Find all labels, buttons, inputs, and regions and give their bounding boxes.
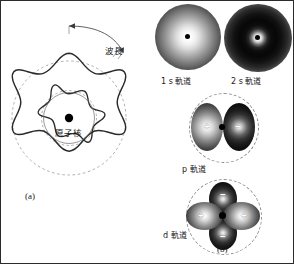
inner-standing-wave <box>33 76 111 151</box>
orbital-1s <box>155 4 221 70</box>
nucleus-dot <box>65 114 73 122</box>
caption-a: (a) <box>25 191 35 201</box>
panel-b-orbitals: 1 s 軌道 2 s 軌道 + − p 軌道 − + <box>151 1 294 264</box>
caption-b: (b) <box>217 244 228 254</box>
orbital-d-nucleus-dot <box>219 212 226 219</box>
nucleus-label: 原子核 <box>55 129 82 138</box>
orbital-d: − + + − <box>181 178 265 254</box>
orbital-1s-nucleus-dot <box>185 34 190 39</box>
wavelength-arrow-left <box>69 23 75 29</box>
orbital-p-sign-negative: − <box>231 121 245 132</box>
orbital-d-sign-top: − <box>216 190 230 200</box>
orbital-p-label: p 軌道 <box>182 163 206 174</box>
panel-a-standing-wave: 原子核 波長 (a) <box>1 1 151 264</box>
orbital-2s-label: 2 s 軌道 <box>231 75 261 86</box>
orbital-p: + − <box>185 91 261 163</box>
figure-container: 原子核 波長 (a) 1 s 軌道 2 s 軌道 + − p 軌道 <box>0 0 294 264</box>
orbital-d-sign-right: + <box>237 211 251 221</box>
wavelength-label: 波長 <box>105 47 123 56</box>
orbital-d-label: d 軌道 <box>163 229 187 240</box>
orbital-d-sign-bottom: − <box>216 232 230 242</box>
orbital-p-sign-positive: + <box>200 121 214 132</box>
orbital-p-nucleus-dot <box>219 124 225 130</box>
orbital-d-sign-left: + <box>194 211 208 221</box>
orbital-1s-label: 1 s 軌道 <box>161 75 191 86</box>
orbital-2s <box>224 4 292 72</box>
orbital-2s-nucleus-dot <box>255 35 260 40</box>
